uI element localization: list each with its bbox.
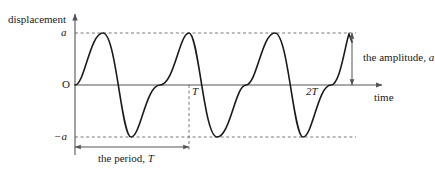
- x-tick-label-period-one: T: [192, 86, 198, 97]
- x-tick-label-period-two: 2T: [306, 86, 318, 97]
- amplitude-annotation: the amplitude, a: [363, 52, 434, 63]
- amplitude-annotation-symbol: a: [429, 51, 435, 63]
- y-tick-label-a-positive: a: [61, 27, 67, 38]
- period-annotation-symbol: T: [148, 152, 154, 164]
- y-tick-label-a-negative: −a: [54, 131, 67, 142]
- y-axis-label: displacement: [8, 14, 66, 25]
- period-annotation-text: the period,: [98, 152, 148, 164]
- oscillation-displacement-time-graph: displacement a O −a T 2T time the amplit…: [0, 0, 435, 170]
- amplitude-annotation-text: the amplitude,: [363, 51, 429, 63]
- period-annotation: the period, T: [98, 153, 154, 164]
- x-axis-label: time: [374, 92, 394, 103]
- origin-label: O: [62, 79, 70, 90]
